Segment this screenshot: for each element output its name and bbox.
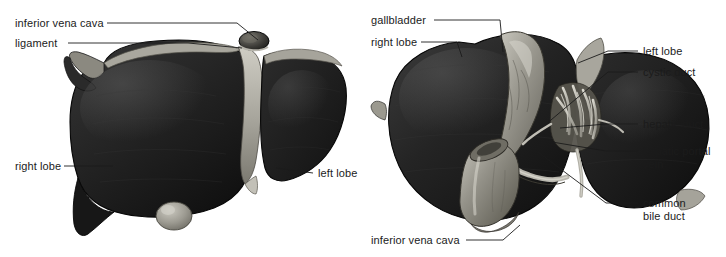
posterior-right-lobe [371, 34, 578, 220]
anterior-inferior-vena-cava [239, 32, 269, 51]
falciform-ligament [104, 42, 262, 194]
leader-common-bile-duct [538, 152, 638, 203]
anterior-right-lobe [64, 40, 252, 236]
label-anterior-inferior-vena-cava: inferior vena cava [15, 17, 104, 30]
label-anterior-ligament: ligament [15, 37, 57, 50]
leader-left-lobe [276, 168, 313, 173]
label-posterior-inferior-vena-cava: inferior vena cava [371, 234, 460, 247]
label-anterior-left-lobe: left lobe [318, 167, 357, 180]
label-posterior-gallbladder: gallbladder [371, 14, 426, 27]
anterior-gallbladder-fundus [156, 202, 192, 230]
porta-hepatis-vessels [523, 83, 623, 196]
leader-hepatic-portal-vein [546, 141, 638, 151]
label-posterior-left-lobe: left lobe [643, 45, 682, 58]
leader-ligament [68, 43, 242, 48]
leader-right-lobe [421, 42, 462, 57]
label-posterior-cystic-duct: cystic duct [643, 66, 695, 79]
leader-inferior-vena-cava [107, 23, 258, 40]
posterior-inferior-vena-cava [460, 134, 519, 232]
label-posterior-right-lobe: right lobe [371, 36, 417, 49]
liver-anatomy-figure: inferior vena cavaligamentright lobeleft… [0, 0, 726, 257]
leader-lines-overlay [0, 0, 726, 257]
leader-gallbladder [434, 20, 503, 52]
label-anterior-right-lobe: right lobe [15, 160, 61, 173]
leader-inferior-vena-cava [466, 225, 520, 240]
leader-cystic-duct [545, 72, 638, 125]
leader-left-lobe [578, 51, 638, 63]
posterior-gallbladder [500, 32, 567, 185]
leader-lines-right [421, 20, 638, 240]
label-posterior-common-bile-duct: common bile duct [643, 197, 686, 222]
label-posterior-hepatic-duct: hepatic duct [643, 118, 704, 131]
leader-hepatic-duct [560, 124, 638, 128]
anterior-left-lobe [261, 49, 347, 181]
label-posterior-hepatic-portal-vein: hepatic portal vein [643, 145, 710, 170]
leader-lines-left [64, 23, 313, 173]
